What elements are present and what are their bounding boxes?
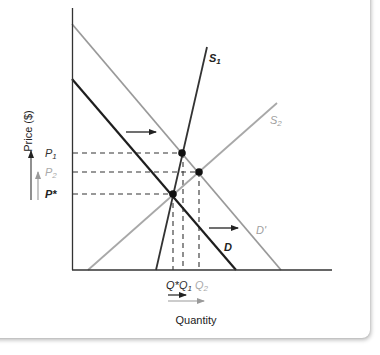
q1-label: Q1	[179, 279, 192, 293]
d-label: D	[224, 241, 232, 253]
pstar-label: P*	[45, 188, 57, 200]
equilibrium-point-p1	[178, 149, 186, 157]
p2-label: P2	[45, 166, 57, 180]
y-axis-title: Price ($)	[22, 110, 34, 152]
s1-label: S1	[209, 52, 221, 66]
supply-demand-chart: S1 S2 D D' P1 P2 P* Q* Q1 Q2 Price ($) Q…	[0, 0, 380, 355]
qstar-label: Q*	[166, 279, 180, 291]
demand-curve-d-prime	[72, 24, 281, 270]
x-axis-title: Quantity	[176, 314, 217, 326]
equilibrium-point-p2	[195, 168, 203, 176]
p1-label: P1	[45, 147, 57, 161]
q2-label: Q2	[195, 279, 209, 293]
equilibrium-point-pstar	[169, 190, 177, 198]
d-prime-label: D'	[256, 224, 267, 236]
s2-label: S2	[270, 114, 282, 128]
dashed-guides	[73, 153, 199, 270]
demand-curve-d	[72, 79, 236, 270]
